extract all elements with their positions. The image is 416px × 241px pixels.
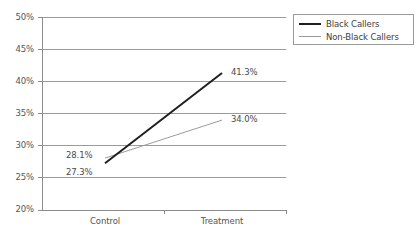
series-line-non-black-callers xyxy=(105,120,222,158)
legend-swatch-non-black-callers xyxy=(299,36,321,37)
legend-item-non-black-callers: Non-Black Callers xyxy=(299,30,399,43)
y-axis-ticks xyxy=(38,17,42,210)
line-chart: 50% 45% 40% 35% 30% 25% 20% Control Trea… xyxy=(0,0,416,241)
legend-item-black-callers: Black Callers xyxy=(299,17,379,30)
data-label-non-black-control: 28.1% xyxy=(66,150,93,160)
data-label-black-control: 27.3% xyxy=(66,167,93,177)
y-tick-label-35: 35% xyxy=(0,108,34,118)
y-tick-label-45: 45% xyxy=(0,44,34,54)
y-tick-label-40: 40% xyxy=(0,76,34,86)
legend-label-black-callers: Black Callers xyxy=(326,19,379,29)
data-label-black-treatment: 41.3% xyxy=(231,67,258,77)
y-tick-label-50: 50% xyxy=(0,12,34,22)
x-axis-ticks xyxy=(164,210,286,214)
y-tick-label-25: 25% xyxy=(0,172,34,182)
series-line-black-callers xyxy=(105,73,222,163)
legend-swatch-black-callers xyxy=(299,23,321,25)
x-tick-label-control: Control xyxy=(65,216,145,226)
x-tick-label-treatment: Treatment xyxy=(182,216,262,226)
data-label-non-black-treatment: 34.0% xyxy=(231,114,258,124)
legend-label-non-black-callers: Non-Black Callers xyxy=(326,32,399,42)
chart-legend: Black Callers Non-Black Callers xyxy=(293,14,414,45)
y-tick-label-20: 20% xyxy=(0,204,34,214)
y-tick-label-30: 30% xyxy=(0,140,34,150)
